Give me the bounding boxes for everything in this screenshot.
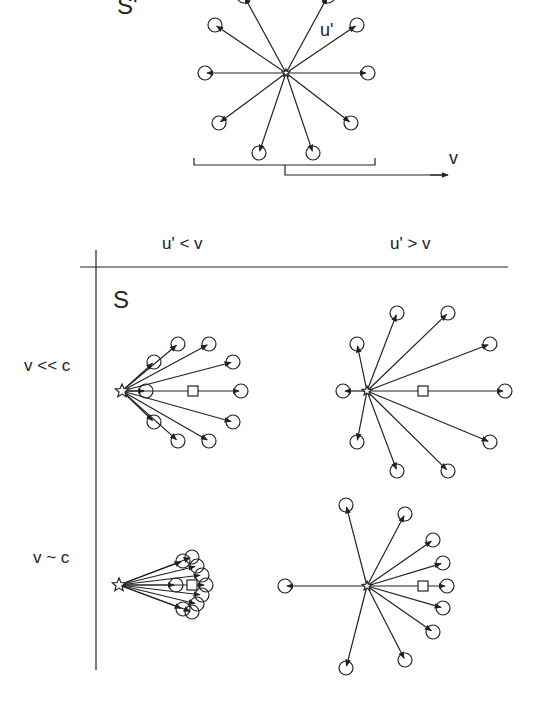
center-of-mass-square-icon (187, 580, 197, 590)
lab-frame-label: S (113, 286, 129, 314)
particle-circle-icon (390, 306, 404, 320)
particle-circle-icon (483, 337, 497, 351)
particle-circle-icon (147, 355, 161, 369)
particle-circle-icon (237, 0, 251, 3)
center-of-mass-square-icon (418, 386, 428, 396)
frame-bracket (194, 158, 375, 165)
frame-velocity-label: v (449, 148, 458, 169)
column-header-slow: u' < v (162, 234, 203, 254)
velocity-arrow (119, 566, 195, 585)
velocity-arrow (347, 507, 367, 586)
particle-circle-icon (441, 464, 455, 478)
velocity-arrow (221, 73, 286, 122)
velocity-arrow (245, 0, 286, 73)
row-header-relativistic: v ~ c (33, 548, 69, 568)
velocity-arrow (286, 73, 349, 122)
particle-circle-icon (208, 18, 222, 32)
row-header-nonrelativistic: v << c (24, 356, 70, 376)
particle-circle-icon (339, 661, 353, 675)
particle-circle-icon (441, 306, 455, 320)
particle-circle-icon (306, 146, 320, 160)
velocity-arrow (367, 391, 447, 470)
particle-circle-icon (212, 116, 226, 130)
velocity-arrow (367, 586, 431, 631)
velocity-prime-label: u' (320, 20, 333, 41)
source-star-icon (282, 69, 290, 76)
particle-circle-icon (171, 434, 185, 448)
particle-circle-icon (321, 0, 335, 3)
particle-circle-icon (202, 337, 216, 351)
diagram-canvas (0, 0, 543, 721)
velocity-arrow (122, 345, 207, 391)
velocity-arrow (367, 315, 396, 391)
velocity-arrow (119, 585, 195, 604)
velocity-arrow (357, 346, 367, 391)
velocity-arrow (286, 73, 312, 151)
frame-prime-label: S' (117, 0, 138, 20)
particle-circle-icon (390, 464, 404, 478)
particle-circle-icon (350, 18, 364, 32)
source-star-icon (112, 578, 125, 591)
center-of-mass-square-icon (188, 386, 198, 396)
particle-circle-icon (426, 625, 440, 639)
velocity-arrow (367, 516, 404, 586)
velocity-arrow (357, 391, 367, 440)
particle-circle-icon (398, 653, 412, 667)
particle-circle-icon (398, 507, 412, 521)
velocity-arrow (367, 586, 441, 607)
column-header-fast: u' > v (390, 234, 431, 254)
particle-circle-icon (226, 415, 240, 429)
particle-circle-icon (226, 355, 240, 369)
velocity-arrow (367, 391, 488, 441)
velocity-arrow (367, 586, 404, 658)
particle-circle-icon (350, 435, 364, 449)
particle-circle-icon (350, 337, 364, 351)
velocity-arrow (217, 26, 286, 73)
velocity-arrow (260, 73, 286, 151)
particle-circle-icon (436, 556, 450, 570)
particle-circle-icon (252, 146, 266, 160)
particle-circle-icon (436, 601, 450, 615)
particle-circle-icon (339, 498, 353, 512)
velocity-arrow (367, 345, 488, 391)
particle-circle-icon (171, 337, 185, 351)
particle-circle-icon (185, 605, 199, 619)
particle-circle-icon (202, 434, 216, 448)
particle-circle-icon (483, 435, 497, 449)
velocity-arrow (367, 314, 447, 391)
particle-circle-icon (426, 533, 440, 547)
velocity-arrow (367, 541, 431, 586)
center-of-mass-square-icon (418, 581, 428, 591)
velocity-arrow (367, 564, 441, 586)
particle-circle-icon (344, 116, 358, 130)
velocity-arrow (122, 391, 207, 440)
frame-velocity-line (285, 165, 446, 175)
particle-circle-icon (147, 415, 161, 429)
velocity-arrow (367, 391, 396, 469)
velocity-arrow (346, 586, 367, 666)
